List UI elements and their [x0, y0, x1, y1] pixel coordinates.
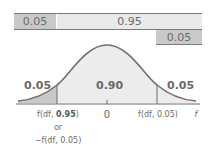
left-tick-or: or [36, 123, 80, 132]
left-tick-alt-label: −f(df, 0.05) [30, 136, 86, 145]
left-tick-label: f(df, 0.95) [36, 110, 80, 119]
right-tick-label: f(df, 0.05) [136, 110, 180, 119]
center-label: 0.90 [96, 79, 123, 92]
central-region [57, 45, 157, 103]
axis-label: f [192, 110, 200, 119]
right-tail-label: 0.05 [167, 79, 194, 92]
center-tick-label: 0 [102, 109, 112, 120]
left-tail-label: 0.05 [24, 79, 51, 92]
